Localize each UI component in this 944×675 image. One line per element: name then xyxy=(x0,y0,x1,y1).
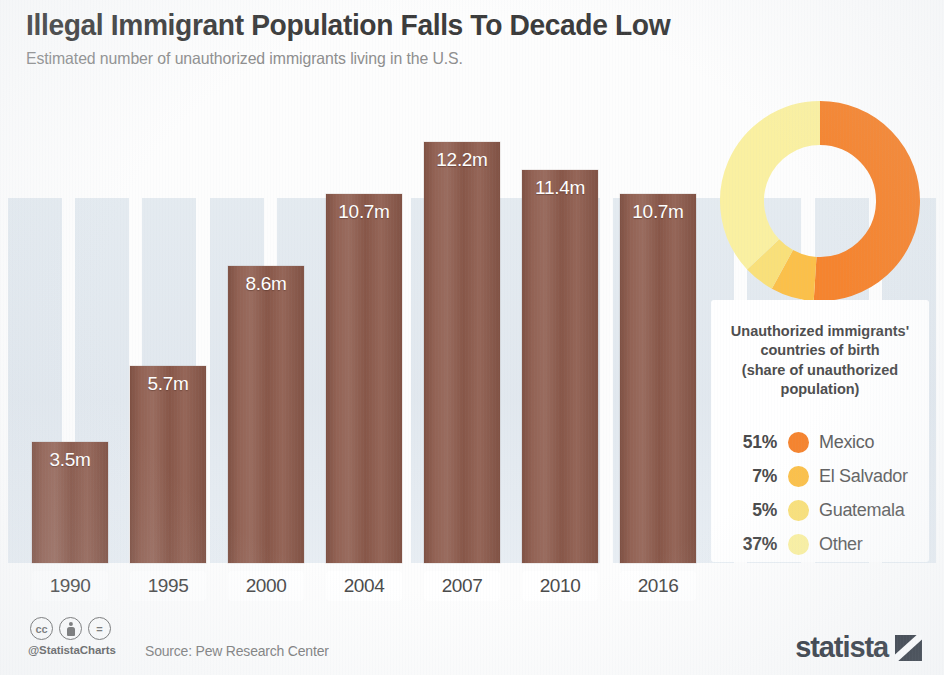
legend-label: Guatemala xyxy=(819,500,904,521)
statista-logo: statista xyxy=(795,631,922,664)
chart-header: Illegal Immigrant Population Falls To De… xyxy=(26,8,906,68)
legend-color-swatch xyxy=(788,432,809,453)
donut-segment-el-salvador xyxy=(782,269,815,278)
bar: 10.7m xyxy=(326,194,402,563)
legend-percentage: 7% xyxy=(725,466,777,487)
bar: 11.4m xyxy=(522,170,598,563)
bar-column: 3.5m xyxy=(32,442,108,563)
legend-color-swatch xyxy=(788,534,809,555)
statista-slash-icon xyxy=(895,635,922,661)
x-axis-year-label: 2004 xyxy=(326,571,402,601)
cc-attribution-icon xyxy=(59,617,82,640)
donut-segment-guatemala xyxy=(763,254,782,269)
legend-row: 51%Mexico xyxy=(725,426,915,460)
legend-row: 7%El Salvador xyxy=(725,460,915,494)
bar-column: 12.2m xyxy=(424,142,500,563)
x-axis-year-label: 2007 xyxy=(424,571,500,601)
legend-percentage: 51% xyxy=(725,432,777,453)
bar-value-label: 12.2m xyxy=(424,149,500,171)
bar: 3.5m xyxy=(32,442,108,563)
legend-color-swatch xyxy=(788,466,809,487)
bar-column: 10.7m xyxy=(326,194,402,563)
bar-value-label: 3.5m xyxy=(32,449,108,471)
x-axis-year-label: 1990 xyxy=(32,571,108,601)
legend-label: El Salvador xyxy=(819,466,908,487)
bar-value-label: 5.7m xyxy=(130,373,206,395)
statista-wordmark: statista xyxy=(795,631,888,664)
donut-segment-other xyxy=(742,123,820,254)
chart-footer: cc = @StatistaCharts Source: Pew Researc… xyxy=(0,601,944,675)
bar-column: 11.4m xyxy=(522,170,598,563)
source-credit: Source: Pew Research Center xyxy=(145,643,329,659)
bar: 12.2m xyxy=(424,142,500,563)
legend-percentage: 5% xyxy=(725,500,777,521)
x-axis-year-label: 2016 xyxy=(620,571,696,601)
legend-row: 5%Guatemala xyxy=(725,494,915,528)
x-axis-year-label: 2010 xyxy=(522,571,598,601)
legend-panel: Unauthorized immigrants'countries of bir… xyxy=(711,300,929,562)
bar-value-label: 10.7m xyxy=(326,201,402,223)
bar-column: 5.7m xyxy=(130,366,206,563)
legend-percentage: 37% xyxy=(725,534,777,555)
statista-infographic: Illegal Immigrant Population Falls To De… xyxy=(0,0,944,675)
creative-commons-icon: cc xyxy=(30,617,53,640)
bar-value-label: 10.7m xyxy=(620,201,696,223)
legend-color-swatch xyxy=(788,500,809,521)
bar: 8.6m xyxy=(228,266,304,563)
creative-commons-icons: cc = xyxy=(30,617,111,640)
legend-label: Mexico xyxy=(819,432,874,453)
bar-value-label: 11.4m xyxy=(522,177,598,199)
bar: 5.7m xyxy=(130,366,206,563)
bar-value-label: 8.6m xyxy=(228,273,304,295)
bar: 10.7m xyxy=(620,194,696,563)
statista-handle: @StatistaCharts xyxy=(28,644,116,656)
legend-heading: Unauthorized immigrants'countries of bir… xyxy=(725,322,915,400)
page-subtitle: Estimated number of unauthorized immigra… xyxy=(26,49,871,68)
donut-segment-mexico xyxy=(815,123,898,279)
legend-row: 37%Other xyxy=(725,528,915,562)
legend-label: Other xyxy=(819,534,863,555)
x-axis-year-label: 2000 xyxy=(228,571,304,601)
bar-column: 8.6m xyxy=(228,266,304,563)
bar-column: 10.7m xyxy=(620,194,696,563)
legend-rows: 51%Mexico7%El Salvador5%Guatemala37%Othe… xyxy=(725,426,915,562)
cc-no-derivatives-icon: = xyxy=(88,617,111,640)
page-title: Illegal Immigrant Population Falls To De… xyxy=(26,8,853,42)
x-axis-year-label: 1995 xyxy=(130,571,206,601)
donut-chart xyxy=(717,98,923,304)
